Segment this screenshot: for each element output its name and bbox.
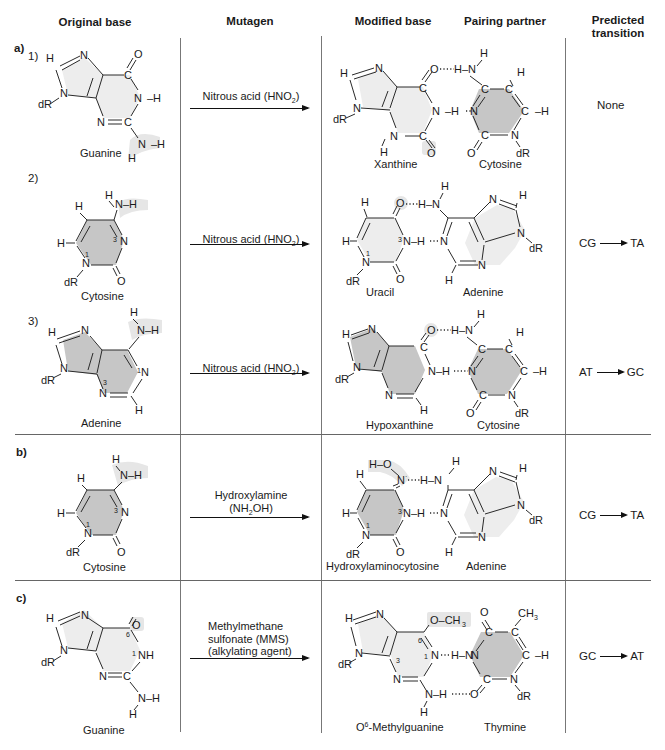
svg-text:3: 3 bbox=[462, 621, 466, 628]
svg-text:O: O bbox=[134, 48, 143, 60]
svg-text:N: N bbox=[440, 235, 448, 247]
svg-text:H: H bbox=[112, 453, 120, 465]
svg-text:N: N bbox=[478, 531, 486, 543]
svg-text:H: H bbox=[75, 200, 83, 212]
svg-text:H: H bbox=[445, 546, 453, 558]
svg-text:N: N bbox=[368, 323, 376, 335]
label-cytosine-partner-a1: Cytosine bbox=[479, 158, 522, 170]
svg-text:N: N bbox=[97, 116, 105, 128]
svg-text:N: N bbox=[375, 62, 383, 74]
svg-text:N–H: N–H bbox=[403, 235, 425, 247]
svg-text:O: O bbox=[466, 407, 475, 419]
label-xanthine: Xanthine bbox=[374, 158, 417, 170]
svg-text:–H: –H bbox=[445, 105, 459, 117]
svg-text:N: N bbox=[141, 366, 149, 378]
svg-text:H–N: H–N bbox=[418, 198, 440, 210]
svg-text:H: H bbox=[135, 404, 143, 416]
svg-text:dR: dR bbox=[529, 242, 543, 254]
svg-text:H: H bbox=[356, 468, 364, 480]
svg-text:N: N bbox=[517, 227, 525, 239]
svg-text:dR: dR bbox=[335, 373, 349, 385]
structure-guanine-a1: HNO CN–H NdR NC N–HH Guanine bbox=[38, 48, 165, 164]
svg-text:dR: dR bbox=[38, 98, 52, 110]
structure-guanine-c: HN NdR 6 O 1NH N C N–H H Guanine bbox=[41, 609, 160, 736]
svg-text:–H: –H bbox=[151, 138, 165, 150]
structure-adenine-a3: HN NdR H N–H 1N 3N H Adenine bbox=[41, 306, 162, 429]
svg-text:O: O bbox=[480, 606, 489, 618]
structures-canvas: HNO CN–H NdR NC N–HH Guanine HNO CN–H H–… bbox=[0, 0, 665, 750]
svg-text:–H: –H bbox=[535, 649, 549, 661]
svg-text:3: 3 bbox=[103, 379, 107, 386]
label-adenine-a3: Adenine bbox=[81, 417, 121, 429]
svg-text:1: 1 bbox=[424, 653, 428, 660]
svg-text:N: N bbox=[84, 527, 92, 539]
svg-text:C: C bbox=[485, 626, 493, 638]
svg-text:C: C bbox=[511, 626, 519, 638]
label-cytosine-a2: Cytosine bbox=[81, 290, 124, 302]
svg-text:dR: dR bbox=[346, 275, 360, 287]
svg-text:O: O bbox=[396, 197, 405, 209]
svg-text:N: N bbox=[353, 102, 361, 114]
svg-text:·: · bbox=[405, 473, 407, 480]
svg-text:H: H bbox=[380, 146, 388, 158]
svg-text:N: N bbox=[471, 649, 479, 661]
svg-text:H: H bbox=[46, 612, 54, 624]
svg-text:H: H bbox=[57, 507, 65, 519]
label-thymine: Thymine bbox=[484, 721, 526, 733]
svg-text:N: N bbox=[440, 507, 448, 519]
structure-methylguanine-thymine-c: HN NdR O–CH3 6 1N H–N 3N N–H H O CC bbox=[338, 606, 549, 733]
svg-text:H: H bbox=[519, 189, 527, 201]
svg-text:C: C bbox=[520, 365, 528, 377]
svg-text:H: H bbox=[340, 67, 348, 79]
svg-text:N: N bbox=[478, 259, 486, 271]
svg-text:H–N: H–N bbox=[454, 63, 476, 75]
svg-text:3: 3 bbox=[114, 507, 118, 514]
svg-text:N: N bbox=[60, 87, 68, 99]
svg-text:N: N bbox=[362, 256, 370, 268]
svg-text:N: N bbox=[121, 506, 129, 518]
svg-text:O: O bbox=[427, 147, 436, 159]
svg-text:H: H bbox=[77, 472, 85, 484]
svg-text:H: H bbox=[361, 196, 369, 208]
svg-text:H: H bbox=[105, 189, 113, 201]
svg-text:dR: dR bbox=[515, 407, 529, 419]
svg-text:N–H: N–H bbox=[120, 469, 142, 481]
svg-text:dR: dR bbox=[517, 690, 531, 702]
structure-cytosine-b: H N–H H H 3N 1N O dR Cytosine bbox=[57, 453, 148, 573]
svg-text:1: 1 bbox=[366, 522, 370, 529]
svg-text:C: C bbox=[420, 341, 428, 353]
svg-text:N–H: N–H bbox=[428, 365, 450, 377]
svg-text:N: N bbox=[81, 609, 89, 621]
svg-text:H–N: H–N bbox=[420, 474, 442, 486]
svg-text:dR: dR bbox=[346, 548, 360, 560]
svg-text:N: N bbox=[390, 130, 398, 142]
svg-text:N–H: N–H bbox=[403, 507, 425, 519]
svg-text:H–N: H–N bbox=[451, 649, 473, 661]
svg-text:N: N bbox=[393, 673, 401, 685]
svg-text:3: 3 bbox=[398, 508, 402, 515]
svg-text:C: C bbox=[481, 83, 489, 95]
svg-text:C: C bbox=[521, 105, 529, 117]
structure-xanthine-cytosine-a1: HNO CN–H H–N H NdR NCH O N CCH C–H NC O … bbox=[333, 47, 549, 170]
svg-text:O–CH: O–CH bbox=[430, 614, 461, 626]
svg-text:N: N bbox=[362, 529, 370, 541]
svg-text:H: H bbox=[441, 180, 449, 192]
svg-text:O: O bbox=[427, 324, 436, 336]
svg-text:H: H bbox=[477, 308, 485, 320]
svg-text:N: N bbox=[431, 649, 439, 661]
svg-text:N–H: N–H bbox=[137, 324, 159, 336]
svg-text:N: N bbox=[376, 608, 384, 620]
label-adenine-partner-b: Adenine bbox=[466, 560, 506, 572]
svg-text:N: N bbox=[517, 499, 525, 511]
svg-text:H: H bbox=[342, 507, 350, 519]
svg-text:C: C bbox=[124, 69, 132, 81]
svg-text:H–N: H–N bbox=[451, 324, 473, 336]
svg-text:H: H bbox=[46, 52, 54, 64]
label-hypoxanthine: Hypoxanthine bbox=[366, 419, 433, 431]
svg-text:NH: NH bbox=[138, 649, 154, 661]
svg-text:H: H bbox=[129, 708, 137, 720]
svg-text:H: H bbox=[345, 612, 353, 624]
svg-text:–H: –H bbox=[535, 105, 549, 117]
svg-text:dR: dR bbox=[338, 658, 352, 670]
svg-text:dR: dR bbox=[66, 546, 80, 558]
